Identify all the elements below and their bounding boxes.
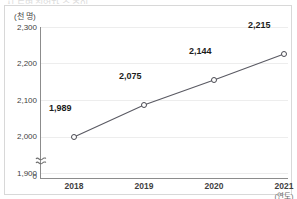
y-tick-2300: 2,300 [7,23,37,32]
y-axis-tick-labels: 2,300 2,200 2,100 2,000 1,900 [5,6,37,196]
x-tick-2020: 2020 [187,181,241,191]
y-tick-2000: 2,000 [7,132,37,141]
data-point-2018 [72,135,77,140]
data-label-2018: 1,989 [49,103,72,113]
data-label-2021: 2,215 [248,20,271,30]
data-label-2019: 2,075 [119,71,142,81]
y-tick-zero: 0 [5,172,37,181]
data-point-2021 [282,52,287,57]
axis-break-icon [35,154,47,168]
x-tick-2018: 2018 [47,181,101,191]
y-tick-2100: 2,100 [7,96,37,105]
x-axis-line [40,178,288,179]
plot-area [40,27,288,174]
chart-container: (천 명) 2,300 2,200 2,100 2,000 1,900 0 20… [4,5,292,195]
data-label-2020: 2,144 [189,46,212,56]
top-caption-text: 시 도별 취업자 수 추이 [6,0,186,4]
x-axis-unit-label: (연도) [257,190,297,199]
series-line [74,54,284,137]
y-tick-2200: 2,200 [7,59,37,68]
data-point-2020 [212,78,217,83]
data-point-2019 [142,103,147,108]
line-series-2018-2021 [40,27,288,174]
x-tick-2019: 2019 [117,181,171,191]
